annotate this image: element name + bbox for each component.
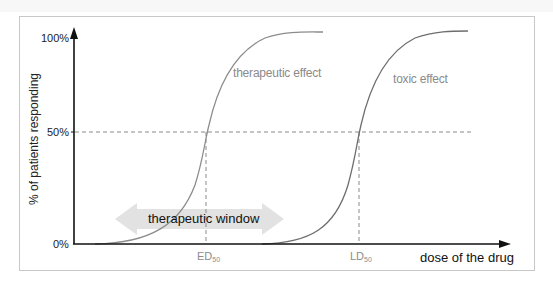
y-tick-50: 50% — [47, 127, 69, 138]
x-axis-label: dose of the drug — [420, 251, 514, 264]
ed50-marker: ED50 — [197, 251, 220, 263]
ld-subscript: 50 — [364, 256, 372, 263]
x-axis-arrowhead — [499, 240, 511, 248]
toxic-effect-curve — [262, 31, 468, 244]
y-tick-0: 0% — [53, 239, 69, 250]
y-axis-label: % of patients responding — [28, 67, 40, 211]
ed-subscript: 50 — [212, 256, 220, 263]
toxic-effect-label: toxic effect — [393, 73, 448, 85]
ld-text: LD — [350, 250, 364, 262]
ed-text: ED — [197, 250, 212, 262]
ld50-marker: LD50 — [350, 251, 372, 263]
therapeutic-window-label: therapeutic window — [148, 212, 259, 225]
y-axis-arrowhead — [70, 27, 78, 39]
therapeutic-effect-label: therapeutic effect — [233, 67, 321, 79]
y-tick-100: 100% — [41, 33, 69, 44]
dose-response-chart — [0, 0, 553, 285]
